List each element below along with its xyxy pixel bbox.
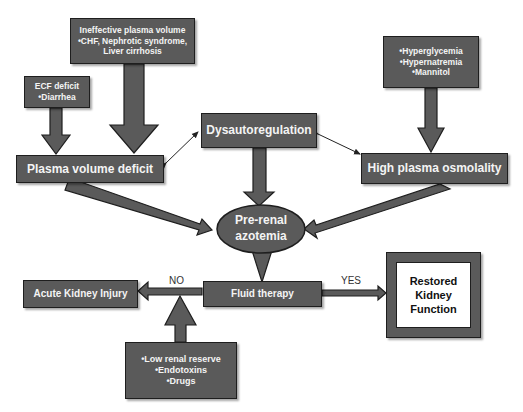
fluid-therapy-box: Fluid therapy — [203, 281, 322, 307]
plasma-volume-deficit-box: Plasma volume deficit — [16, 155, 164, 183]
arrow-ineffective-to-plasma — [110, 64, 158, 153]
arrow-plasma-to-prerenal — [65, 181, 212, 235]
diagram-canvas: Ineffective plasma volume •CHF, Nephroti… — [0, 0, 523, 412]
yes-label: YES — [341, 275, 361, 286]
restored-inner: Restored Kidney Function — [396, 262, 471, 328]
restored-kidney-function-box: Restored Kidney Function — [386, 252, 481, 338]
no-label: NO — [169, 275, 184, 286]
dysautoregulation-box: Dysautoregulation — [201, 113, 317, 148]
ineffective-plasma-volume-box: Ineffective plasma volume •CHF, Nephroti… — [70, 18, 195, 64]
link-plasma-dysauto — [166, 132, 198, 163]
arrow-risk-to-no — [165, 296, 196, 342]
high-plasma-osmolality-box: High plasma osmolality — [361, 153, 508, 184]
arrow-osmolality-to-prerenal — [304, 184, 450, 238]
link-dysauto-osmolality — [318, 134, 360, 154]
arrow-yes-to-restored — [322, 286, 386, 300]
risk-factors-box: •Low renal reserve •Endotoxins •Drugs — [125, 342, 237, 399]
arrow-osmotic-to-osmolality — [418, 88, 444, 152]
prerenal-azotemia-label: Pre-renal azotemia — [217, 213, 305, 244]
ecf-deficit-box: ECF deficit •Diarrhea — [24, 76, 90, 108]
acute-kidney-injury-box: Acute Kidney Injury — [23, 280, 138, 308]
arrow-dysauto-to-prerenal — [244, 148, 274, 206]
arrow-ecf-to-plasma — [42, 108, 70, 154]
osmotic-causes-box: •Hyperglycemia •Hypernatremia •Mannitol — [383, 36, 479, 88]
